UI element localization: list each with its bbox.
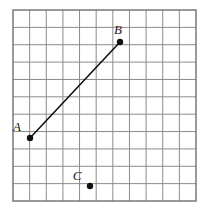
segment-ab — [30, 42, 120, 138]
segment-layer — [30, 42, 120, 138]
point-a — [27, 135, 33, 141]
point-label-layer: ABC — [12, 22, 122, 183]
point-label-a: A — [12, 119, 21, 134]
grid-lines — [13, 10, 196, 201]
figure-container: ABC — [0, 0, 211, 208]
point-label-c: C — [73, 168, 82, 183]
point-c — [87, 183, 93, 189]
grid-border — [13, 10, 196, 201]
point-b — [117, 39, 123, 45]
grid-diagram-svg: ABC — [0, 0, 211, 208]
grid-outer-border — [13, 10, 196, 201]
point-label-b: B — [114, 22, 122, 37]
